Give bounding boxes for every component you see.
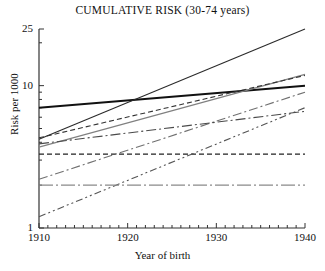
x-tick-label: 1940 [285,231,325,243]
y-tick-label: 25 [7,22,33,34]
x-tick-label: 1930 [196,231,236,243]
chart-figure: CUMULATIVE RISK (30-74 years) Risk per 1… [0,0,325,271]
y-tick-label: 10 [7,79,33,91]
series-line-series-2 [39,29,305,139]
series-line-series-7 [39,108,305,217]
x-tick-label: 1910 [19,231,59,243]
series-line-series-4 [39,75,305,137]
x-tick-label: 1920 [108,231,148,243]
data-series-group [39,29,305,217]
series-line-series-9 [39,111,305,144]
series-line-series-1 [39,86,305,108]
